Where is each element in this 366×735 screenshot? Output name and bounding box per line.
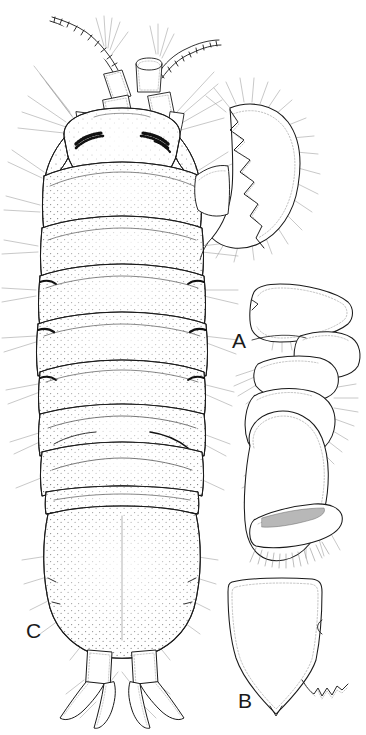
panel-label-c: C (26, 620, 42, 641)
pereonites (37, 162, 208, 514)
uropods (60, 650, 184, 728)
plate-margin-enlargement (302, 680, 348, 699)
panel-a-appendage (234, 284, 360, 568)
pleotelson (44, 506, 201, 658)
figure-plate: C A B (0, 0, 366, 735)
claw-mandible (195, 78, 320, 262)
panel-label-b: B (238, 690, 253, 711)
panel-label-a: A (232, 330, 247, 351)
plate-illustration (0, 0, 366, 735)
